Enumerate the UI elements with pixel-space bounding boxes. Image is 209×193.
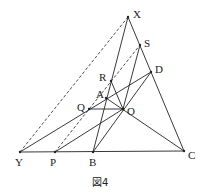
label-R: R [99,71,107,83]
label-D: D [155,63,163,75]
figure-caption: 図4 [92,177,108,188]
segment-XC [128,17,184,151]
segment-XB [93,17,128,152]
label-C: C [188,149,195,161]
label-X: X [133,8,141,20]
label-Q: Q [77,101,85,113]
segment-YC [20,151,184,152]
segment-AC [106,98,184,151]
label-S: S [144,37,150,49]
label-P: P [50,156,56,168]
point-dots [19,16,185,153]
geometry-diagram: X S D R A Q O Y P B C 図4 [0,0,209,193]
label-A: A [96,88,104,100]
segment-DB [93,72,151,152]
segment-PO [55,109,123,152]
label-Y: Y [15,156,23,168]
label-O: O [127,105,135,117]
label-B: B [89,156,96,168]
segment-YX [20,17,128,152]
